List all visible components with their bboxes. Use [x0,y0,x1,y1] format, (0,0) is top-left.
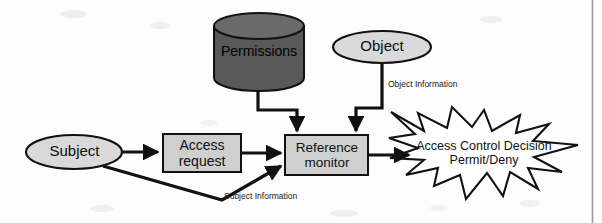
node-access-request [163,134,241,172]
edge-object-to-reference-monitor [356,63,382,131]
diagram-canvas: Permissions Object Subject Access reques… [0,0,602,223]
node-reference-monitor [285,135,368,175]
node-access-control-decision [389,107,578,199]
edge-permissions-to-reference-monitor [258,91,297,131]
node-subject [26,135,122,169]
node-permissions [214,13,304,91]
node-object [333,31,431,63]
diagram-vector-layer [0,0,602,223]
